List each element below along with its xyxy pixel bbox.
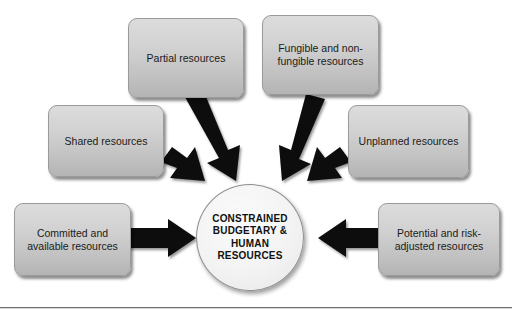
bottom-divider-rule <box>0 307 512 309</box>
node-box-partial[interactable]: Partial resources <box>128 18 244 98</box>
node-label-shared: Shared resources <box>58 135 155 148</box>
node-box-potential[interactable]: Potential and risk- adjusted resources <box>378 203 500 276</box>
diagram-canvas: Partial resources Fungible and non- fung… <box>0 0 512 319</box>
node-box-committed[interactable]: Committed and available resources <box>14 203 131 276</box>
arrow-unplanned-to-center <box>307 147 351 181</box>
node-label-committed: Committed and available resources <box>20 227 124 253</box>
node-box-shared[interactable]: Shared resources <box>48 105 164 177</box>
arrow-committed-to-center <box>128 219 196 257</box>
node-label-fungible: Fungible and non- fungible resources <box>271 42 371 68</box>
node-label-potential: Potential and risk- adjusted resources <box>388 227 491 253</box>
node-label-unplanned: Unplanned resources <box>352 135 466 148</box>
arrow-potential-to-center <box>318 219 386 257</box>
center-node-label: CONSTRAINED BUDGETARY & HUMAN RESOURCES <box>212 213 288 263</box>
node-box-fungible[interactable]: Fungible and non- fungible resources <box>262 15 379 95</box>
node-label-partial: Partial resources <box>140 52 233 65</box>
center-node-circle[interactable]: CONSTRAINED BUDGETARY & HUMAN RESOURCES <box>196 184 304 291</box>
arrow-shared-to-center <box>161 147 205 181</box>
node-box-unplanned[interactable]: Unplanned resources <box>348 105 469 178</box>
